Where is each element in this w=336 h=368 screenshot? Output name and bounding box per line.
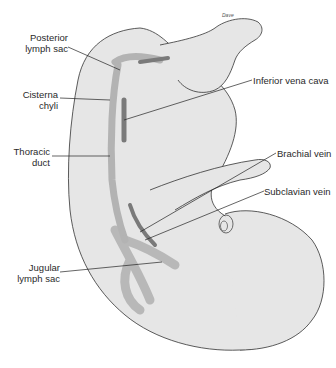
label-thoracic-duct: Thoracic duct [0, 146, 50, 168]
label-inferior-vena-cava: Inferior vena cava [253, 75, 329, 86]
label-posterior-lymph-sac: Posterior lymph sac [8, 32, 68, 54]
label-line: lymph sac [8, 43, 68, 54]
signature: Dave [222, 12, 234, 18]
label-line: Posterior [8, 32, 68, 43]
label-line: lymph sac [0, 273, 60, 284]
label-brachial-vein: Brachial vein [277, 148, 331, 159]
label-cisterna-chyli: Cisterna chyli [0, 89, 58, 111]
label-line: Cisterna [0, 89, 58, 100]
label-jugular-lymph-sac: Jugular lymph sac [0, 262, 60, 284]
label-line: Jugular [0, 262, 60, 273]
label-subclavian-vein: Subclavian vein [264, 186, 331, 197]
label-line: duct [0, 157, 50, 168]
label-line: chyli [0, 100, 58, 111]
embryo-head [225, 211, 324, 350]
embryo-diagram: Dave [0, 0, 336, 368]
label-line: Thoracic [0, 146, 50, 157]
